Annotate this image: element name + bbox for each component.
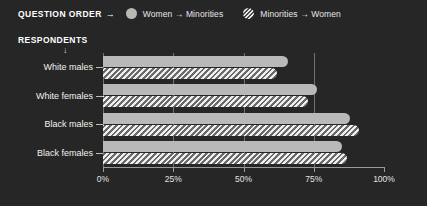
arrow-right-icon: → (106, 9, 115, 19)
x-axis-tick (384, 167, 385, 172)
solid-circle-icon (126, 8, 137, 19)
bar-solid[interactable] (103, 56, 288, 67)
legend-item-minorities-women[interactable]: Minorities → Women (243, 8, 341, 19)
legend-item-women-minorities[interactable]: Women → Minorities (126, 8, 224, 19)
y-axis-label: Black females (37, 148, 93, 158)
x-axis-tick-label: 0% (97, 174, 109, 184)
y-axis-tick (96, 153, 103, 154)
y-axis-tick (96, 124, 103, 125)
plot-area: 0%25%50%75%100%White malesWhite femalesB… (103, 53, 384, 167)
arrow-down-icon: ↓ (63, 45, 68, 55)
x-axis-tick-label: 50% (235, 174, 252, 184)
y-axis-tick (96, 67, 103, 68)
x-axis-tick (173, 167, 174, 172)
bar-solid[interactable] (103, 141, 342, 152)
bar-hatched[interactable] (103, 68, 277, 79)
y-axis-tick (96, 96, 103, 97)
bar-solid[interactable] (103, 113, 350, 124)
bar-hatched[interactable] (103, 96, 308, 107)
legend-item-label: Women → Minorities (143, 9, 224, 19)
x-axis-tick (103, 167, 104, 172)
x-axis-tick-label: 100% (373, 174, 395, 184)
x-axis-tick-label: 25% (165, 174, 182, 184)
hatched-circle-icon (243, 8, 254, 19)
x-axis-tick (314, 167, 315, 172)
y-axis-label: White females (36, 91, 93, 101)
chart-legend: QUESTION ORDER → Women → Minorities Mino… (18, 8, 361, 19)
x-axis-tick-label: 75% (305, 174, 322, 184)
legend-item-label: Minorities → Women (260, 9, 341, 19)
bar-hatched[interactable] (103, 125, 359, 136)
y-axis-label: Black males (44, 119, 93, 129)
y-axis-label: White males (43, 62, 93, 72)
bar-solid[interactable] (103, 84, 317, 95)
legend-title: QUESTION ORDER (18, 9, 102, 19)
bar-hatched[interactable] (103, 153, 347, 164)
respondents-axis-title: RESPONDENTS (18, 35, 88, 45)
x-axis-tick (244, 167, 245, 172)
bar-chart: QUESTION ORDER → Women → Minorities Mino… (0, 0, 427, 206)
